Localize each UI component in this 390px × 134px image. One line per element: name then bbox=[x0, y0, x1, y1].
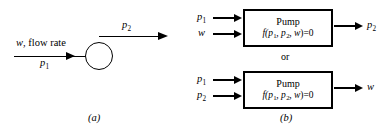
panel-a-schematic: w, flow rate p1 p2 (a) bbox=[0, 0, 195, 134]
top-block-input-1-arrowhead-icon bbox=[234, 14, 242, 22]
inlet-pressure-subscript: 1 bbox=[46, 63, 50, 71]
bottom-block-output-label: w bbox=[367, 82, 374, 93]
outlet-pressure-label: p2 bbox=[122, 20, 131, 31]
pump-circle-symbol bbox=[85, 42, 113, 70]
flow-rate-text: , flow rate bbox=[23, 37, 66, 48]
panel-a-caption: (a) bbox=[88, 112, 100, 123]
pump-block-bottom-title: Pump bbox=[276, 79, 299, 90]
pump-block-top: Pump f(p1, p2, w)=0 bbox=[243, 9, 333, 47]
pump-block-top-equation: f(p1, p2, w)=0 bbox=[262, 29, 313, 39]
panel-b-block-diagrams: p1 w Pump f(p1, p2, w)=0 p2 or p1 p2 Pum… bbox=[195, 0, 390, 134]
panel-b-caption: (b) bbox=[280, 112, 292, 123]
inlet-pressure-symbol: p1 bbox=[40, 57, 49, 68]
pump-figure: w, flow rate p1 p2 (a) p1 w Pump f(p1, p… bbox=[0, 0, 390, 134]
or-connector-label: or bbox=[281, 52, 289, 62]
bottom-block-input-2-arrowhead-icon bbox=[234, 92, 242, 100]
top-block-output-arrowhead-icon bbox=[355, 22, 363, 30]
inlet-pressure-label: p1 bbox=[40, 58, 49, 69]
pump-block-bottom: Pump f(p1, p2, w)=0 bbox=[243, 71, 333, 109]
outlet-pressure-subscript: 2 bbox=[128, 25, 132, 33]
top-block-input-2-arrowhead-icon bbox=[234, 30, 242, 38]
outlet-arrowhead-icon bbox=[158, 32, 168, 40]
top-block-input-2-label: w bbox=[198, 28, 205, 39]
flow-rate-label: w, flow rate bbox=[16, 38, 66, 49]
pump-block-top-title: Pump bbox=[276, 17, 299, 28]
bottom-block-input-1-label: p1 bbox=[197, 74, 206, 85]
outlet-flow-line bbox=[99, 36, 165, 37]
top-block-output-label: p2 bbox=[367, 20, 376, 31]
flow-rate-symbol: w bbox=[16, 37, 23, 48]
pump-block-bottom-equation: f(p1, p2, w)=0 bbox=[262, 91, 313, 101]
bottom-block-input-1-arrowhead-icon bbox=[234, 76, 242, 84]
inlet-arrowhead-icon bbox=[66, 52, 75, 60]
outlet-pressure-symbol: p2 bbox=[122, 19, 131, 30]
bottom-block-input-2-label: p2 bbox=[197, 90, 206, 101]
top-block-input-1-label: p1 bbox=[197, 12, 206, 23]
bottom-block-output-arrowhead-icon bbox=[355, 84, 363, 92]
